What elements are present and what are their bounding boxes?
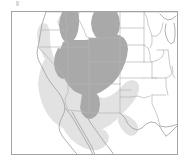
map-figure (0, 0, 187, 165)
core-wyoming-colorado-block (89, 38, 120, 62)
western-us-distribution-map (0, 0, 187, 165)
